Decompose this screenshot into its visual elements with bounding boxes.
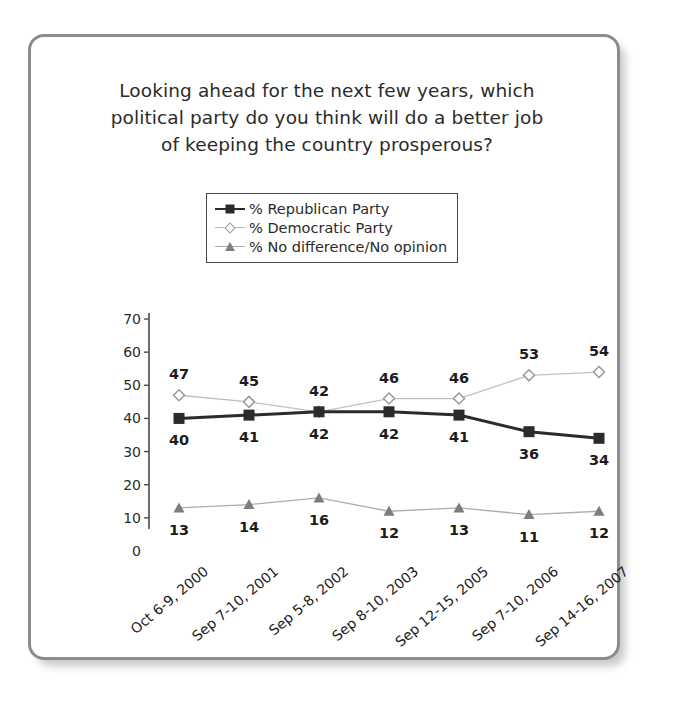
data-point-label: 42	[309, 426, 329, 442]
y-tick-label: 0	[115, 543, 141, 559]
legend-label-republican: % Republican Party	[249, 201, 389, 217]
data-point-label: 47	[169, 366, 189, 382]
data-point-label: 14	[239, 519, 259, 535]
legend-label-democratic: % Democratic Party	[249, 220, 393, 236]
data-point-label: 13	[449, 522, 469, 538]
data-point-label: 46	[449, 370, 469, 386]
data-point-label: 41	[239, 429, 259, 445]
legend-item-democratic: % Democratic Party	[215, 218, 447, 237]
data-point-label: 16	[309, 512, 329, 528]
y-tick-label: 20	[115, 477, 141, 493]
data-point-label: 41	[449, 429, 469, 445]
y-tick-label: 60	[115, 344, 141, 360]
data-point-label: 34	[589, 452, 609, 468]
data-point-label: 12	[379, 525, 399, 541]
chart-title-line-3: of keeping the country prosperous?	[71, 131, 583, 158]
chart-card: Looking ahead for the next few years, wh…	[28, 34, 620, 660]
legend-item-republican: % Republican Party	[215, 199, 447, 218]
data-point-label: 53	[519, 346, 539, 362]
data-point-label: 45	[239, 373, 259, 389]
chart-title-line-1: Looking ahead for the next few years, wh…	[71, 77, 583, 104]
y-tick-label: 70	[115, 311, 141, 327]
legend-item-nodifference: % No difference/No opinion	[215, 237, 447, 256]
data-point-label: 12	[589, 525, 609, 541]
y-tick-label: 40	[115, 410, 141, 426]
data-point-label: 42	[309, 383, 329, 399]
data-point-label: 11	[519, 529, 539, 545]
data-point-label: 40	[169, 432, 189, 448]
chart-title: Looking ahead for the next few years, wh…	[71, 77, 583, 158]
data-point-label: 54	[589, 343, 609, 359]
y-tick-label: 30	[115, 444, 141, 460]
data-point-label: 42	[379, 426, 399, 442]
chart-plot-area: 010203040506070 404142424136344745424646…	[91, 281, 607, 529]
data-point-label: 46	[379, 370, 399, 386]
chart-svg	[91, 281, 607, 529]
chart-title-line-2: political party do you think will do a b…	[71, 104, 583, 131]
data-point-label: 13	[169, 522, 189, 538]
legend-marker-square-icon	[215, 201, 245, 217]
chart-legend: % Republican Party % Democratic Party % …	[206, 193, 458, 263]
y-tick-label: 10	[115, 510, 141, 526]
legend-marker-diamond-icon	[215, 220, 245, 236]
legend-marker-triangle-icon	[215, 239, 245, 255]
data-point-label: 36	[519, 446, 539, 462]
legend-label-nodifference: % No difference/No opinion	[249, 239, 447, 255]
y-tick-label: 50	[115, 377, 141, 393]
